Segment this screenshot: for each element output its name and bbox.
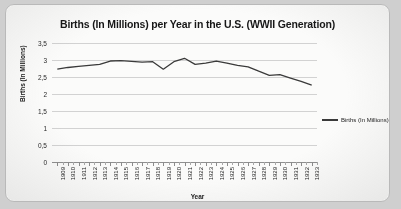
x-axis-tick <box>121 162 122 166</box>
x-axis-tick <box>238 162 239 166</box>
x-axis-tick <box>280 162 281 166</box>
x-axis-tick-label: 1932 <box>304 167 310 180</box>
x-axis-minor-tick <box>158 162 159 165</box>
y-axis-tick-label: 3,5 <box>38 40 47 47</box>
x-axis-tick-label: 1933 <box>314 167 320 180</box>
x-axis-tick-label: 1918 <box>155 167 161 180</box>
x-axis-tick <box>110 162 111 166</box>
y-axis-tick-label: 1,5 <box>38 108 47 115</box>
x-axis-tick <box>89 162 90 166</box>
x-axis-tick-label: 1915 <box>123 167 129 180</box>
x-axis-tick-label: 1919 <box>166 167 172 180</box>
x-axis-minor-tick <box>200 162 201 165</box>
x-axis-tick-label: 1914 <box>113 167 119 180</box>
y-axis-tick-label: 3 <box>43 57 47 64</box>
x-axis-tick-label: 1924 <box>219 167 225 180</box>
x-axis-minor-tick <box>116 162 117 165</box>
x-axis-tick <box>57 162 58 166</box>
x-axis-minor-tick <box>222 162 223 165</box>
x-axis-tick-label: 1920 <box>176 167 182 180</box>
x-axis-minor-tick <box>94 162 95 165</box>
x-axis-tick <box>216 162 217 166</box>
x-axis-tick-label: 1921 <box>187 167 193 180</box>
legend-line-swatch-icon <box>322 119 338 121</box>
y-axis-tick-label: 0 <box>43 159 47 166</box>
x-axis-minor-tick <box>147 162 148 165</box>
x-axis-minor-tick <box>232 162 233 165</box>
x-axis-minor-tick <box>253 162 254 165</box>
x-axis-minor-tick <box>179 162 180 165</box>
chart-legend: Births (In Millions) <box>322 117 389 123</box>
x-axis-minor-tick <box>84 162 85 165</box>
x-axis-minor-tick <box>63 162 64 165</box>
x-axis-tick-label: 1922 <box>198 167 204 180</box>
x-axis-tick <box>153 162 154 166</box>
x-axis-tick-label: 1927 <box>251 167 257 180</box>
x-axis-minor-tick <box>73 162 74 165</box>
x-axis-tick <box>142 162 143 166</box>
x-axis-tick <box>291 162 292 166</box>
x-axis-tick-label: 1923 <box>208 167 214 180</box>
x-axis-tick-label: 1910 <box>70 167 76 180</box>
x-axis-tick-label: 1917 <box>145 167 151 180</box>
x-axis-minor-tick <box>264 162 265 165</box>
x-axis-tick <box>312 162 313 166</box>
x-axis-tick <box>100 162 101 166</box>
legend-entry-label: Births (In Millions) <box>341 117 389 123</box>
x-axis-minor-tick <box>275 162 276 165</box>
x-axis-minor-tick <box>306 162 307 165</box>
x-axis-tick <box>163 162 164 166</box>
x-axis-tick <box>185 162 186 166</box>
x-axis-tick-label: 1928 <box>261 167 267 180</box>
chart-title: Births (In Millions) per Year in the U.S… <box>6 18 389 30</box>
x-axis-tick-labels: 1909191019111912191319141915191619171918… <box>52 167 317 193</box>
y-axis-tick-label: 2,5 <box>38 74 47 81</box>
x-axis-minor-tick <box>243 162 244 165</box>
x-axis-minor-tick <box>190 162 191 165</box>
x-axis-tick-label: 1916 <box>134 167 140 180</box>
x-axis-minor-tick <box>211 162 212 165</box>
x-axis-minor-tick <box>285 162 286 165</box>
x-axis-minor-tick <box>169 162 170 165</box>
x-axis-tick-label: 1926 <box>240 167 246 180</box>
y-axis-tick-label: 1 <box>43 125 47 132</box>
x-axis-tick-label: 1911 <box>81 167 87 180</box>
x-axis-tick-label: 1930 <box>282 167 288 180</box>
x-axis-minor-tick <box>126 162 127 165</box>
x-axis-tick <box>227 162 228 166</box>
x-axis-minor-tick <box>317 162 318 165</box>
x-axis-minor-tick <box>296 162 297 165</box>
x-axis-tick <box>68 162 69 166</box>
x-axis-tick-label: 1909 <box>60 167 66 180</box>
x-axis-tick-label: 1913 <box>102 167 108 180</box>
x-axis-tick <box>301 162 302 166</box>
x-axis-title: Year <box>6 193 389 200</box>
x-axis-tick <box>132 162 133 166</box>
x-axis-tick-label: 1929 <box>272 167 278 180</box>
x-axis-tick <box>195 162 196 166</box>
x-axis-tick-label: 1912 <box>92 167 98 180</box>
x-axis-minor-tick <box>105 162 106 165</box>
x-axis-minor-tick <box>137 162 138 165</box>
x-axis-tick <box>269 162 270 166</box>
series-line-births <box>52 43 317 162</box>
x-axis-tick-label: 1925 <box>229 167 235 180</box>
x-axis-tick <box>174 162 175 166</box>
x-axis-tick <box>259 162 260 166</box>
plot-area: 3,532,521,510,50 <box>52 43 317 162</box>
chart-card: Births (In Millions) per Year in the U.S… <box>5 4 390 202</box>
chart-screenshot: Births (In Millions) per Year in the U.S… <box>0 0 401 209</box>
x-axis-tick-label: 1931 <box>293 167 299 180</box>
y-axis-tick-label: 2 <box>43 91 47 98</box>
y-axis-tick-label: 0,5 <box>38 142 47 149</box>
y-axis-title: Births (In Millions) <box>19 45 26 102</box>
x-axis-tick <box>79 162 80 166</box>
x-axis-tick <box>206 162 207 166</box>
x-axis-tick <box>248 162 249 166</box>
